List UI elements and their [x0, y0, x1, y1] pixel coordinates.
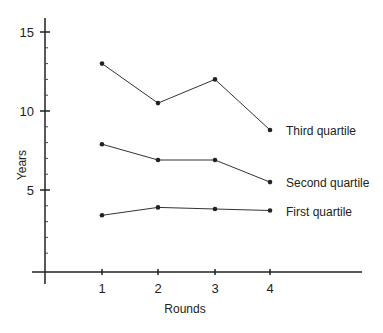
- data-point: [156, 205, 161, 210]
- y-tick-label: 15: [20, 25, 34, 40]
- x-tick-label: 1: [98, 281, 105, 296]
- y-axis-title: Years: [15, 150, 29, 180]
- x-tick-label: 3: [211, 281, 218, 296]
- series-third-quartile: Third quartile: [100, 61, 357, 138]
- data-point: [156, 101, 161, 106]
- x-tick-label: 4: [266, 281, 273, 296]
- line-chart: 51015 Years 1234 Rounds Third quartileSe…: [0, 0, 383, 333]
- x-tick-label: 2: [154, 281, 161, 296]
- data-point: [213, 77, 218, 82]
- data-point: [213, 158, 218, 163]
- series-line: [102, 207, 270, 215]
- series-second-quartile: Second quartile: [100, 142, 370, 190]
- y-tick-label: 10: [20, 104, 34, 119]
- data-point: [268, 180, 273, 185]
- data-point: [268, 208, 273, 213]
- series-label: First quartile: [286, 205, 352, 219]
- data-point: [268, 128, 273, 133]
- data-point: [100, 213, 105, 218]
- series-line: [102, 144, 270, 182]
- series-group: Third quartileSecond quartileFirst quart…: [100, 61, 370, 218]
- data-point: [156, 158, 161, 163]
- y-axis: 51015 Years: [15, 18, 50, 284]
- data-point: [213, 207, 218, 212]
- x-axis-title: Rounds: [164, 302, 205, 316]
- series-label: Third quartile: [286, 124, 356, 138]
- data-point: [100, 61, 105, 66]
- data-point: [100, 142, 105, 147]
- y-tick-label: 5: [27, 183, 34, 198]
- series-label: Second quartile: [286, 176, 370, 190]
- series-line: [102, 64, 270, 130]
- series-first-quartile: First quartile: [100, 205, 353, 219]
- x-axis: 1234 Rounds: [32, 269, 362, 316]
